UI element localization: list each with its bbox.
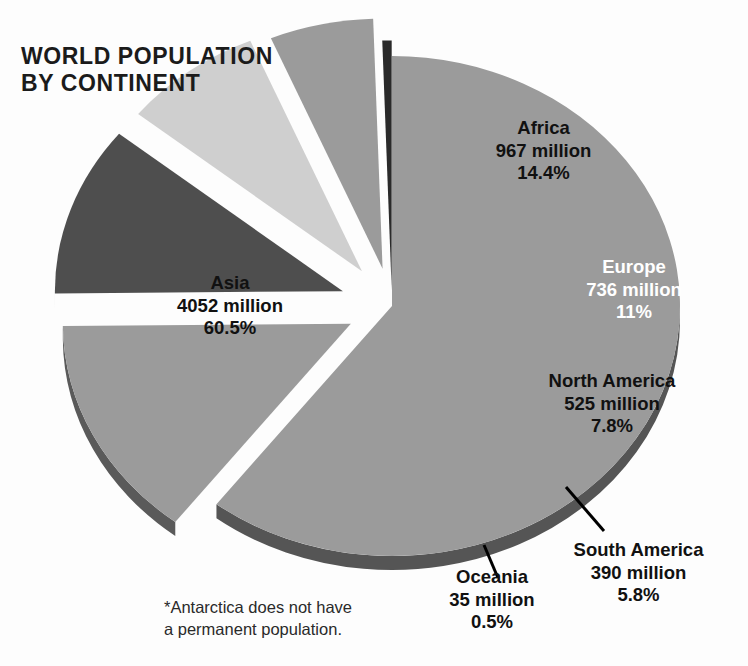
- slice-label-africa-percent: 14.4%: [466, 162, 621, 185]
- slice-label-oceania-name: Oceania: [427, 566, 557, 589]
- slice-label-asia: Asia 4052 million 60.5%: [146, 272, 314, 340]
- slice-label-oceania: Oceania 35 million 0.5%: [427, 566, 557, 634]
- slice-label-oceania-value: 35 million: [427, 589, 557, 612]
- slice-label-north-america-name: North America: [508, 370, 716, 393]
- slice-label-north-america-percent: 7.8%: [508, 415, 716, 438]
- slice-label-north-america-value: 525 million: [508, 393, 716, 416]
- slice-label-oceania-percent: 0.5%: [427, 611, 557, 634]
- chart-page: WORLD POPULATION BY CONTINENT Asia 4052 …: [0, 0, 748, 666]
- slice-label-asia-name: Asia: [146, 272, 314, 295]
- slice-label-europe-value: 736 million: [551, 279, 717, 302]
- antarctica-footnote: *Antarctica does not have a permanent po…: [164, 596, 352, 640]
- slice-label-north-america: North America 525 million 7.8%: [508, 370, 716, 438]
- oceania-slice[interactable]: [382, 40, 391, 290]
- slice-label-africa-name: Africa: [466, 117, 621, 140]
- slice-label-south-america-value: 390 million: [542, 562, 735, 585]
- page-title: WORLD POPULATION BY CONTINENT: [21, 43, 273, 97]
- slice-label-europe-percent: 11%: [551, 301, 717, 324]
- slice-label-asia-percent: 60.5%: [146, 317, 314, 340]
- slice-label-africa: Africa 967 million 14.4%: [466, 117, 621, 185]
- slice-label-south-america: South America 390 million 5.8%: [542, 539, 735, 607]
- slice-label-south-america-name: South America: [542, 539, 735, 562]
- slice-label-europe: Europe 736 million 11%: [551, 256, 717, 324]
- slice-label-asia-value: 4052 million: [146, 295, 314, 318]
- slice-label-europe-name: Europe: [551, 256, 717, 279]
- slice-label-africa-value: 967 million: [466, 140, 621, 163]
- slice-label-south-america-percent: 5.8%: [542, 584, 735, 607]
